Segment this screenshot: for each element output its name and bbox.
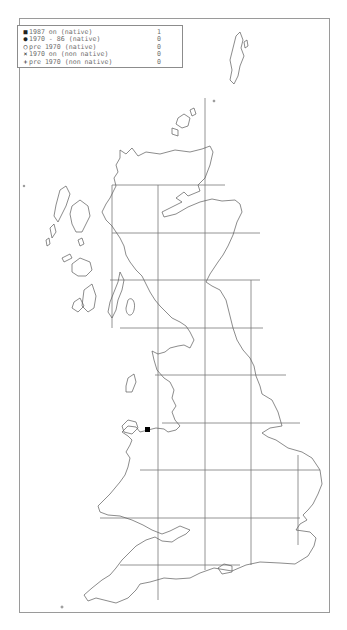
record-marker-1987-on-native	[145, 427, 150, 432]
legend-row: + pre 1970 (non native) 0	[22, 59, 182, 66]
coastline	[23, 32, 322, 608]
legend-label: pre 1970 (non native)	[29, 59, 157, 66]
legend: ■ 1987 on (native) 1 ● 1970 - 86 (native…	[17, 25, 183, 68]
distribution-map	[0, 0, 347, 630]
legend-count: 0	[157, 59, 177, 66]
plus-icon: +	[22, 59, 29, 66]
grid-lines	[100, 98, 320, 600]
